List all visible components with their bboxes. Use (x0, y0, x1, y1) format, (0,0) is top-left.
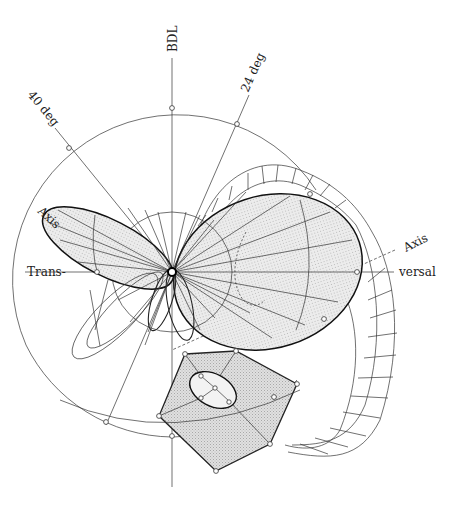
label-versal: versal (398, 265, 436, 279)
lower-ray (106, 272, 172, 425)
hexagon-shape (60, 351, 300, 471)
label-right-axis: Axis (400, 231, 430, 255)
label-24-deg: 24 deg (238, 50, 268, 94)
label-trans: Trans- (27, 265, 66, 279)
label-bdl: BDL (166, 26, 180, 52)
label-40-deg: 40 deg (25, 88, 63, 129)
center-node (168, 268, 176, 276)
diagram-canvas: BDL 40 deg 24 deg Axis Trans- Axis versa… (0, 0, 455, 505)
